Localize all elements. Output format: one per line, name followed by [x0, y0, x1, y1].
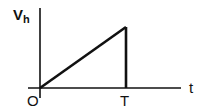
ramp-diagram: Vh O T t — [0, 0, 206, 112]
y-axis-label: Vh — [13, 6, 30, 25]
origin-label: O — [27, 92, 39, 109]
period-label: T — [120, 92, 129, 109]
ramp-line — [40, 27, 126, 88]
x-axis-label: t — [189, 79, 194, 96]
